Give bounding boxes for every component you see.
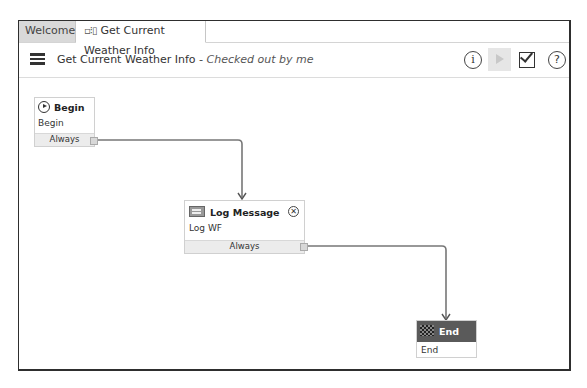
connection-label: Always (35, 133, 94, 146)
toolbar: Get Current Weather Info - Checked out b… (19, 42, 569, 78)
output-port[interactable] (90, 137, 98, 145)
node-subtitle: Log WF (189, 223, 222, 233)
log-icon (189, 206, 205, 217)
close-icon[interactable]: ✕ (288, 206, 299, 217)
begin-node[interactable]: Begin Begin Always (34, 97, 95, 147)
workflow-editor-window: Welcome ▫⁝▯Get Current Weather Info Get … (18, 20, 571, 371)
run-button[interactable] (488, 48, 511, 71)
connection-label: Always (185, 240, 304, 253)
workflow-title: Get Current Weather Info (57, 53, 196, 66)
output-port[interactable] (300, 243, 308, 251)
tab-welcome[interactable]: Welcome (19, 21, 76, 42)
node-title: Log Message (210, 207, 280, 218)
tab-bar: Welcome ▫⁝▯Get Current Weather Info (19, 21, 569, 43)
checkered-flag-icon (420, 325, 434, 336)
play-circle-icon (38, 101, 50, 113)
page-title: Get Current Weather Info - Checked out b… (57, 42, 314, 77)
tab-label: Welcome (25, 24, 75, 37)
validate-icon[interactable] (519, 52, 535, 68)
node-title: End (439, 326, 459, 337)
end-node-header: End (417, 321, 476, 342)
log-message-node[interactable]: Log Message ✕ Log WF Always (184, 200, 305, 254)
help-icon[interactable]: ? (548, 51, 566, 69)
workflow-canvas[interactable]: Begin Begin Always Log Message ✕ Log WF … (19, 78, 569, 369)
checkout-status: - Checked out by me (196, 53, 314, 66)
tab-get-current-weather-info[interactable]: ▫⁝▯Get Current Weather Info (76, 21, 206, 43)
end-node[interactable]: End End (416, 320, 477, 358)
node-title: Begin (54, 102, 85, 113)
node-subtitle: Begin (38, 118, 64, 128)
info-icon[interactable]: i (464, 51, 482, 69)
workflow-icon: ▫⁝▯ (84, 21, 96, 41)
menu-icon[interactable] (30, 53, 45, 65)
node-subtitle: End (421, 345, 438, 355)
